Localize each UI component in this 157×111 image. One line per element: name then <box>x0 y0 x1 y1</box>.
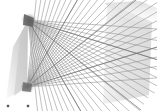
line-art-figure <box>0 0 157 111</box>
bottom-marker-left <box>7 105 9 107</box>
figure-canvas <box>0 0 157 111</box>
bottom-marker-right <box>27 105 29 107</box>
